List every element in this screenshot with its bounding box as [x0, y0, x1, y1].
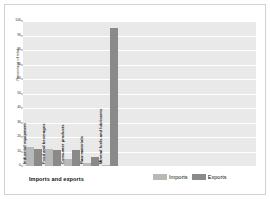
legend-entry: Imports [153, 174, 188, 180]
legend-label: Imports [169, 174, 188, 180]
category-label: Consumer products [60, 124, 64, 164]
bar-exports [110, 28, 118, 166]
bar-imports [83, 163, 91, 166]
screenshot-root: Percentage of total 01020304050607080901… [0, 0, 270, 199]
x-axis-title: Imports and exports [29, 176, 84, 182]
bar-group [26, 21, 42, 166]
legend-label: Exports [208, 174, 227, 180]
bar-group [102, 21, 118, 166]
category-label: Food and beverages [41, 123, 45, 164]
bar-imports [102, 165, 110, 166]
bar-chart-figure: Percentage of total 01020304050607080901… [5, 5, 265, 194]
category-label: Raw materials [79, 136, 83, 164]
legend-swatch [192, 174, 206, 180]
legend-entry: Exports [192, 174, 227, 180]
bar-group [45, 21, 61, 166]
y-tick-label: 100 [15, 19, 23, 22]
gridline [23, 166, 256, 167]
bar-groups [23, 21, 256, 166]
bar-group [64, 21, 80, 166]
bar-group [83, 21, 99, 166]
plot-area: 0102030405060708090100 Industrial equipm… [23, 21, 256, 166]
legend-swatch [153, 174, 167, 180]
bar-imports [45, 149, 53, 166]
category-label: Mineral fuels and lubricants [98, 109, 102, 164]
bar-imports [64, 159, 72, 166]
bar-imports [26, 147, 34, 166]
legend: ImportsExports [153, 174, 227, 180]
category-label: Industrial equipment [22, 123, 26, 164]
